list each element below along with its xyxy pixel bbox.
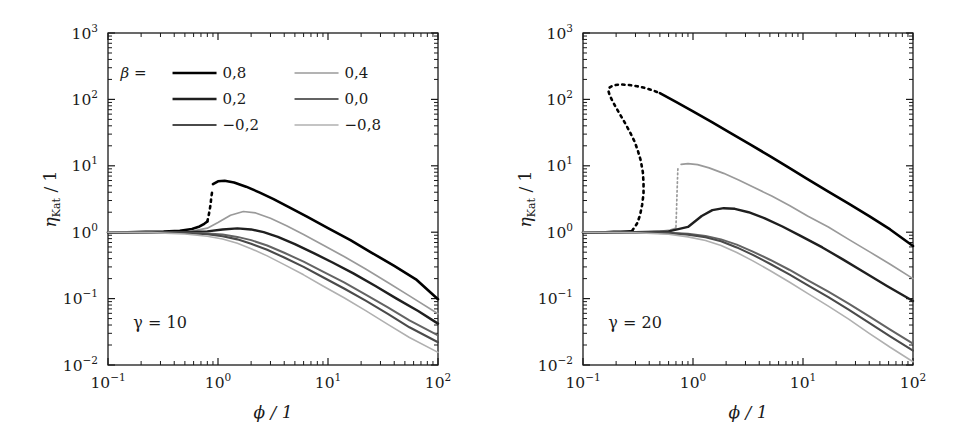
x-tick-label: 102 <box>425 371 451 392</box>
series-0_4 <box>583 164 913 279</box>
series-0_8 <box>583 84 913 246</box>
legend-label: 0,2 <box>223 90 247 108</box>
y-tick-label: 100 <box>547 221 573 242</box>
x-tick-label: 102 <box>900 371 926 392</box>
legend-entry[interactable]: −0,2 <box>173 116 259 134</box>
y-tick-label: 100 <box>72 221 98 242</box>
legend-entry[interactable]: 0,0 <box>295 90 369 108</box>
x-tick-label: 10−1 <box>90 371 125 392</box>
y-tick-label: 10−2 <box>538 354 573 375</box>
gamma-annotation: γ = 20 <box>608 313 662 332</box>
y-tick-label: 10−1 <box>63 287 98 308</box>
series-0_2 <box>583 208 913 301</box>
svg-text:ηKat / 1: ηKat / 1 <box>515 171 538 228</box>
y-tick-label: 10−1 <box>538 287 573 308</box>
svg-text:γ = 10: γ = 10 <box>133 313 187 332</box>
series-0_8 <box>108 181 438 299</box>
plot-area-right: 10−110010110210−210−1100101102103ϕ / 1ηK… <box>470 0 953 435</box>
curve-solid-upper <box>660 93 913 246</box>
legend-entry[interactable]: 0,4 <box>295 64 369 82</box>
curve-dotted-unstable <box>676 167 678 227</box>
gamma-annotation: γ = 10 <box>133 313 187 332</box>
x-tick-label: 101 <box>790 371 816 392</box>
plot-area-left: 10−110010110210−210−1100101102103ϕ / 1ηK… <box>0 0 470 435</box>
y-tick-label: 103 <box>72 22 98 43</box>
y-tick-labels: 10−210−1100101102103 <box>63 22 98 375</box>
legend-label: 0,4 <box>345 64 369 82</box>
legend-entry[interactable]: −0,8 <box>295 116 381 134</box>
x-tick-labels: 10−1100101102 <box>90 371 451 392</box>
legend-label: 0,0 <box>345 90 369 108</box>
svg-text:γ = 20: γ = 20 <box>608 313 662 332</box>
y-axis-title: ηKat / 1 <box>40 171 63 228</box>
x-tick-label: 100 <box>205 371 231 392</box>
y-tick-label: 102 <box>547 88 573 109</box>
y-axis-title: ηKat / 1 <box>515 171 538 228</box>
x-tick-labels: 10−1100101102 <box>565 371 926 392</box>
figure-root: 10−110010110210−210−1100101102103ϕ / 1ηK… <box>0 0 953 435</box>
y-tick-label: 102 <box>72 88 98 109</box>
curve-dotted-unstable <box>207 192 212 222</box>
x-tick-label: 10−1 <box>565 371 600 392</box>
legend-label: −0,2 <box>223 116 259 134</box>
x-axis-title: ϕ / 1 <box>729 402 768 422</box>
svg-text:ηKat / 1: ηKat / 1 <box>40 171 63 228</box>
x-tick-label: 101 <box>315 371 341 392</box>
y-tick-label: 101 <box>72 154 98 175</box>
panel-gamma-20: 10−110010110210−210−1100101102103ϕ / 1ηK… <box>470 0 953 435</box>
legend-label: 0,8 <box>223 64 247 82</box>
y-tick-labels: 10−210−1100101102103 <box>538 22 573 375</box>
panel-gamma-10: 10−110010110210−210−1100101102103ϕ / 1ηK… <box>0 0 470 435</box>
x-tick-label: 100 <box>680 371 706 392</box>
legend-entry[interactable]: 0,8 <box>173 64 247 82</box>
curve-solid <box>108 228 438 323</box>
series-_0_8 <box>108 232 438 352</box>
series-0_2 <box>108 228 438 323</box>
y-tick-label: 101 <box>547 154 573 175</box>
x-axis-title: ϕ / 1 <box>254 402 293 422</box>
curve-solid <box>108 232 438 352</box>
svg-text:ϕ / 1: ϕ / 1 <box>254 402 293 422</box>
legend-title: β = <box>120 64 147 82</box>
curve-solid <box>583 208 913 301</box>
curve-dotted-unstable <box>608 84 660 230</box>
y-tick-label: 10−2 <box>63 354 98 375</box>
svg-text:ϕ / 1: ϕ / 1 <box>729 402 768 422</box>
y-tick-label: 103 <box>547 22 573 43</box>
legend-entry[interactable]: 0,2 <box>173 90 247 108</box>
legend-label: −0,8 <box>345 116 381 134</box>
legend: β =0,80,40,20,0−0,2−0,8 <box>120 64 381 134</box>
